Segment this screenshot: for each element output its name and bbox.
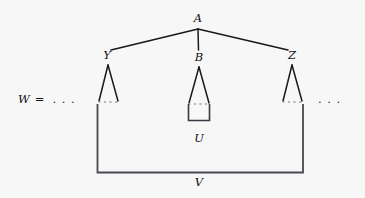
triangle-under-y: [99, 65, 118, 102]
triangle-z-right-leg: [292, 65, 302, 101]
root-edges: [111, 29, 288, 50]
triangle-under-b: [189, 67, 209, 104]
bracket-label-u: U: [194, 133, 204, 145]
node-label-z: Z: [288, 50, 296, 62]
edge-a-to-y: [111, 29, 198, 50]
bracket-label-v: V: [195, 177, 203, 189]
label-w: W: [18, 92, 30, 106]
node-label-b: B: [195, 52, 203, 64]
right-ellipsis: . . .: [318, 94, 341, 106]
figure-canvas: W=. . . . . . A Y B Z U V: [0, 0, 365, 198]
triangle-y-left-leg: [99, 65, 108, 101]
edge-a-to-b: [198, 29, 199, 50]
triangle-z-left-leg: [283, 65, 292, 101]
left-ellipsis: . . .: [52, 92, 75, 106]
node-label-y: Y: [103, 50, 111, 62]
triangle-b-right-leg: [199, 67, 209, 103]
bracket-u: [189, 104, 210, 121]
triangle-under-z: [283, 65, 302, 102]
equals-sign: =: [35, 92, 45, 106]
edge-a-to-z: [198, 29, 288, 50]
equation-left-hand-side: W=. . .: [18, 94, 76, 106]
node-label-a: A: [194, 13, 202, 25]
triangle-b-left-leg: [189, 67, 199, 103]
triangle-y-right-leg: [108, 65, 118, 101]
